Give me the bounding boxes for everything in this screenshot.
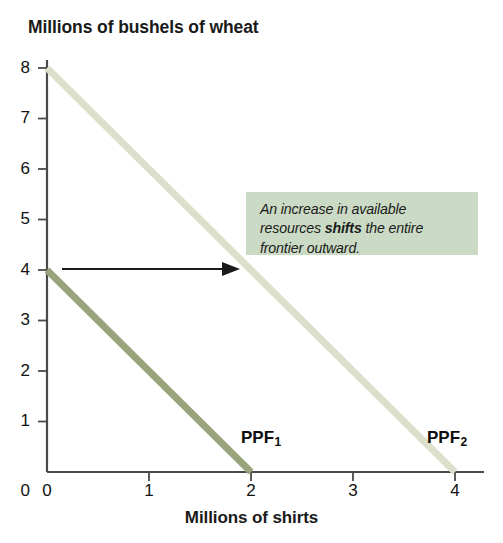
x-tick-label-1: 1 xyxy=(136,481,162,501)
y-tick-label-6: 6 xyxy=(4,159,30,179)
y-tick-label-3: 3 xyxy=(4,310,30,330)
y-tick-marks xyxy=(38,68,47,422)
ppf-chart: Millions of bushels of wheat xyxy=(0,0,503,543)
callout-text: An increase in available resources shift… xyxy=(260,200,468,258)
y-tick-label-5: 5 xyxy=(4,209,30,229)
x-tick-marks xyxy=(149,472,455,481)
callout-box: An increase in available resources shift… xyxy=(246,192,478,255)
x-axis-title: Millions of shirts xyxy=(0,508,503,528)
callout-text-bold: shifts xyxy=(325,220,362,236)
ppf1-curve xyxy=(47,270,251,472)
x-tick-label-3: 3 xyxy=(340,481,366,501)
y-tick-label-1: 1 xyxy=(4,411,30,431)
x-tick-label-0: 0 xyxy=(34,481,60,501)
ppf2-label: PPF2 xyxy=(427,428,467,448)
y-tick-label-8: 8 xyxy=(4,58,30,78)
y-tick-label-2: 2 xyxy=(4,361,30,381)
ppf1-label: PPF1 xyxy=(241,428,281,448)
ppf1-label-subscript: 1 xyxy=(275,435,282,449)
ppf2-label-subscript: 2 xyxy=(461,435,468,449)
x-tick-label-2: 2 xyxy=(238,481,264,501)
y-tick-label-0: 0 xyxy=(4,481,30,501)
ppf2-label-text: PPF xyxy=(427,428,460,447)
ppf1-label-text: PPF xyxy=(241,428,274,447)
y-tick-label-7: 7 xyxy=(4,108,30,128)
y-tick-label-4: 4 xyxy=(4,260,30,280)
plot-canvas xyxy=(0,0,503,543)
shift-arrow xyxy=(62,262,240,276)
x-tick-label-4: 4 xyxy=(442,481,468,501)
